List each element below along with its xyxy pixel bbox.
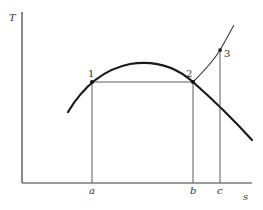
point-1-marker: [90, 80, 94, 84]
tick-label-a: a: [89, 185, 95, 196]
point-1-label: 1: [88, 68, 94, 79]
point-2-marker: [191, 80, 195, 84]
y-axis-label: T: [9, 12, 17, 23]
x-axis-label: s: [243, 191, 248, 202]
tick-label-b: b: [190, 185, 196, 196]
point-3-marker: [219, 49, 222, 52]
ts-diagram: 1 2 3 T s a b c: [0, 0, 263, 210]
tick-label-c: c: [217, 185, 223, 196]
point-3-label: 3: [224, 48, 230, 59]
point-2-label: 2: [186, 68, 192, 79]
saturation-dome-curve: [68, 63, 252, 140]
